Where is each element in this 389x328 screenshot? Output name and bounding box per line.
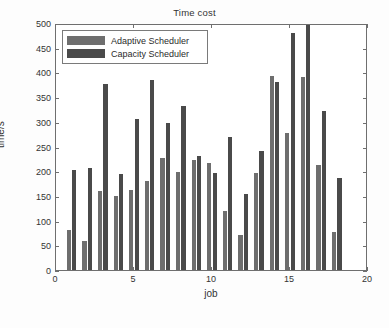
x-tick-mark [133, 24, 134, 28]
figure-canvas: Time cost time/s job 0501001502002503003… [0, 0, 389, 328]
bar-adaptive-job-17 [316, 165, 320, 270]
legend-item: Adaptive Scheduler [67, 34, 203, 47]
y-tick-mark [363, 148, 367, 149]
bar-capacity-job-16 [306, 25, 310, 270]
y-tick-mark [55, 148, 59, 149]
y-tick-mark [363, 73, 367, 74]
x-tick-mark [211, 24, 212, 28]
y-tick-mark [363, 98, 367, 99]
y-tick-label: 400 [11, 68, 51, 78]
bar-capacity-job-7 [166, 123, 170, 270]
bar-adaptive-job-4 [114, 196, 118, 270]
y-tick-mark [55, 49, 59, 50]
y-tick-mark [363, 49, 367, 50]
y-tick-mark [55, 271, 59, 272]
y-tick-mark [363, 197, 367, 198]
legend-swatch-capacity-icon [67, 49, 105, 58]
bar-capacity-job-6 [150, 80, 154, 270]
y-tick-label: 300 [11, 118, 51, 128]
bar-adaptive-job-1 [67, 230, 71, 270]
y-tick-mark [55, 222, 59, 223]
y-tick-label: 350 [11, 93, 51, 103]
bar-adaptive-job-5 [129, 190, 133, 270]
y-tick-label: 250 [11, 143, 51, 153]
bar-adaptive-job-3 [98, 191, 102, 270]
y-tick-mark [55, 172, 59, 173]
bar-adaptive-job-14 [270, 76, 274, 270]
legend-label-capacity: Capacity Scheduler [111, 49, 189, 59]
legend-item: Capacity Scheduler [67, 47, 203, 60]
x-tick-label: 15 [274, 274, 304, 284]
y-tick-mark [55, 246, 59, 247]
bar-adaptive-job-6 [145, 181, 149, 270]
y-tick-label: 150 [11, 192, 51, 202]
bar-adaptive-job-8 [176, 172, 180, 270]
y-tick-mark [363, 123, 367, 124]
bar-capacity-job-11 [228, 137, 232, 270]
y-tick-label: 200 [11, 167, 51, 177]
bar-adaptive-job-10 [207, 163, 211, 270]
x-axis-title: job [55, 288, 367, 299]
x-tick-mark [211, 267, 212, 271]
y-tick-mark [55, 98, 59, 99]
bar-capacity-job-10 [213, 173, 217, 270]
legend-swatch-adaptive-icon [67, 36, 105, 45]
x-tick-label: 5 [118, 274, 148, 284]
bar-adaptive-job-13 [254, 173, 258, 270]
x-tick-label: 0 [40, 274, 70, 284]
bar-capacity-job-4 [119, 174, 123, 270]
bar-capacity-job-14 [275, 82, 279, 270]
y-tick-mark [363, 246, 367, 247]
bar-capacity-job-12 [244, 194, 248, 270]
y-axis-title: time/s [0, 121, 6, 148]
bar-capacity-job-18 [337, 178, 341, 270]
y-tick-mark [55, 197, 59, 198]
y-tick-mark [55, 73, 59, 74]
x-tick-mark [367, 267, 368, 271]
x-tick-mark [133, 267, 134, 271]
bar-adaptive-job-2 [82, 241, 86, 270]
x-tick-mark [55, 267, 56, 271]
bar-adaptive-job-12 [238, 235, 242, 270]
legend: Adaptive Scheduler Capacity Scheduler [62, 30, 208, 64]
bar-adaptive-job-9 [192, 160, 196, 270]
x-tick-mark [289, 267, 290, 271]
y-tick-label: 450 [11, 44, 51, 54]
x-tick-mark [289, 24, 290, 28]
y-tick-label: 500 [11, 19, 51, 29]
bar-adaptive-job-7 [160, 158, 164, 270]
y-tick-mark [363, 222, 367, 223]
legend-label-adaptive: Adaptive Scheduler [111, 36, 189, 46]
bar-adaptive-job-11 [223, 211, 227, 270]
x-tick-label: 10 [196, 274, 226, 284]
y-tick-mark [363, 271, 367, 272]
bar-capacity-job-13 [259, 151, 263, 270]
bar-capacity-job-9 [197, 156, 201, 270]
bar-capacity-job-1 [72, 170, 76, 270]
x-tick-mark [55, 24, 56, 28]
y-tick-mark [55, 123, 59, 124]
bar-capacity-job-17 [322, 111, 326, 270]
bar-capacity-job-3 [103, 84, 107, 270]
bar-capacity-job-15 [291, 33, 295, 270]
bar-adaptive-job-15 [285, 133, 289, 270]
bar-capacity-job-2 [88, 168, 92, 270]
y-tick-label: 50 [11, 241, 51, 251]
x-tick-label: 20 [352, 274, 382, 284]
bar-capacity-job-8 [181, 106, 185, 271]
y-tick-label: 100 [11, 217, 51, 227]
y-tick-mark [363, 172, 367, 173]
x-tick-mark [367, 24, 368, 28]
bar-adaptive-job-16 [301, 77, 305, 270]
bar-adaptive-job-18 [332, 232, 336, 270]
page-title: Time cost [0, 7, 389, 18]
bar-capacity-job-5 [135, 119, 139, 270]
